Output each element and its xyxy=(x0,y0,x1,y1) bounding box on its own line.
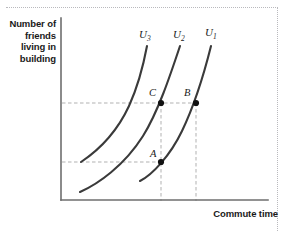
data-point-C xyxy=(158,100,164,106)
curve-label-base: U xyxy=(139,28,147,40)
y-axis-label: Number of friends living in building xyxy=(4,18,56,64)
point-label-C: C xyxy=(149,87,156,98)
curve-label-U3: U3 xyxy=(139,28,151,43)
curve-label-base: U xyxy=(205,26,213,38)
curve-label-U1: U1 xyxy=(205,26,217,41)
data-points-group xyxy=(158,100,199,165)
point-label-A: A xyxy=(150,148,156,159)
curve-U2 xyxy=(80,46,180,192)
curve-label-subscript: 3 xyxy=(147,34,151,43)
curve-U1 xyxy=(140,46,211,181)
x-axis-label: Commute time xyxy=(196,208,278,220)
data-point-A xyxy=(158,159,164,165)
point-label-B: B xyxy=(184,87,190,98)
guide-lines-group xyxy=(62,103,198,201)
curve-label-subscript: 1 xyxy=(213,32,217,41)
indifference-curve-figure: Number of friends living in building Com… xyxy=(0,0,290,231)
curve-label-U2: U2 xyxy=(173,28,185,43)
curve-label-base: U xyxy=(173,28,181,40)
curve-label-subscript: 2 xyxy=(181,34,185,43)
curves-group xyxy=(80,46,211,192)
data-point-B xyxy=(193,100,199,106)
axes-group xyxy=(61,18,268,200)
